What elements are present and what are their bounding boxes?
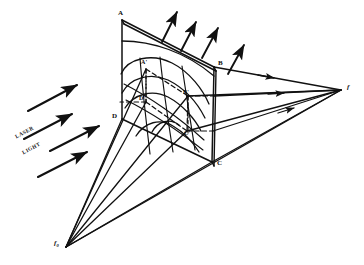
focal-point-label-f0: f0: [54, 240, 59, 249]
diagram-canvas: [0, 0, 364, 265]
vertex-label-d: D: [112, 113, 117, 120]
vertex-label-c-prime: C': [184, 130, 190, 136]
vertex-label-d-prime: D': [139, 95, 145, 101]
vertex-label-c: C: [217, 160, 222, 167]
incoming-laser-arrows: [24, 85, 99, 177]
focal-point-label-f: f: [347, 84, 350, 91]
vertex-label-a-prime: A': [141, 59, 147, 65]
vertex-label-b: B: [218, 60, 223, 67]
right-converging-rays: [187, 67, 341, 162]
focal-point-f0-subscript: 0: [57, 243, 60, 248]
optics-diagram: A B C D A' B' C' D' f f0 LASER LIGHT: [0, 0, 364, 265]
base-triangle: [66, 90, 341, 247]
vertex-label-b-prime: B': [183, 89, 189, 95]
vertex-label-a: A: [118, 10, 123, 17]
